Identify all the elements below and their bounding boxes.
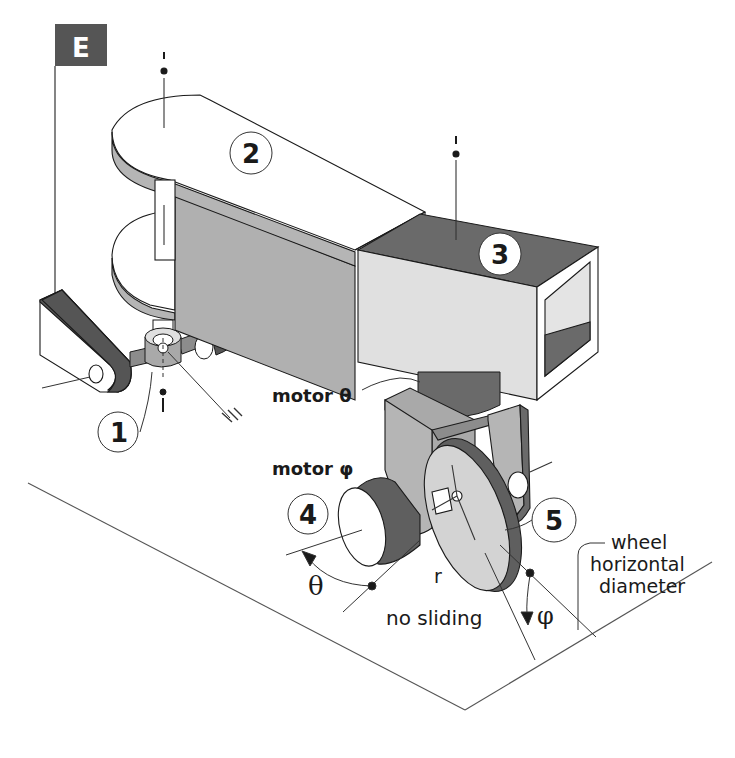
wheel-diameter-label-1: wheel	[611, 531, 667, 553]
no-sliding-label: no sliding	[386, 606, 482, 630]
wheel-mechanism-diagram: E	[0, 0, 735, 758]
frame-tag-label: E	[72, 33, 90, 63]
left-link-block	[40, 290, 131, 392]
motor-phi-label: motor φ	[272, 458, 353, 479]
wheel-diameter-label-3: diameter	[599, 575, 685, 597]
radius-label: r	[434, 565, 442, 587]
callout-4: 4	[288, 494, 328, 534]
callout-5: 5	[532, 498, 576, 542]
callout-2: 2	[230, 132, 272, 174]
svg-text:1: 1	[110, 418, 128, 448]
callout-3: 3	[479, 233, 521, 275]
callout-1: 1	[98, 412, 138, 452]
svg-text:5: 5	[545, 506, 563, 536]
frame-tag-e: E	[55, 24, 107, 305]
svg-text:2: 2	[242, 139, 260, 169]
svg-text:3: 3	[491, 240, 509, 270]
phi-symbol: φ	[537, 602, 554, 630]
motor-theta-label: motor θ	[272, 385, 352, 406]
theta-symbol: θ	[308, 571, 324, 601]
wheel-diameter-label-2: horizontal	[590, 553, 685, 575]
svg-text:4: 4	[299, 500, 317, 530]
square-tube	[358, 136, 598, 400]
